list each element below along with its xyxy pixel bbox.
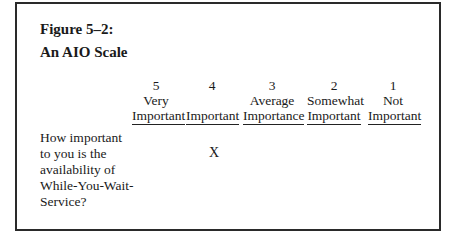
- scale-label-line1: Average: [243, 93, 301, 108]
- scale-option-1: 1 Not Important: [368, 78, 418, 125]
- scale-option-3: 3 Average Importance: [243, 78, 301, 125]
- response-mark: X: [209, 145, 219, 161]
- figure-title: An AIO Scale: [40, 43, 128, 61]
- figure-label: Figure 5–2:: [40, 20, 113, 38]
- scale-value: 2: [307, 78, 361, 93]
- scale-label-line1: Not: [368, 93, 418, 108]
- scale-label-line2: Importance: [243, 108, 304, 125]
- scale-label-line2: Important: [186, 108, 239, 125]
- scale-label-line2: Important: [132, 108, 185, 125]
- scale-label-line1: Somewhat: [307, 93, 361, 108]
- question-text: How important to you is the availability…: [40, 130, 150, 210]
- question-line: to you is the: [40, 146, 150, 162]
- scale-label-line2: Important: [368, 108, 421, 125]
- scale-option-5: 5 Very Important: [132, 78, 180, 125]
- question-line: While-You-Wait-: [40, 178, 150, 194]
- scale-option-2: 2 Somewhat Important: [307, 78, 361, 125]
- scale-value: 3: [243, 78, 301, 93]
- question-line: How important: [40, 130, 150, 146]
- question-line: Service?: [40, 194, 150, 210]
- scale-value: 4: [186, 78, 238, 93]
- scale-label-line2: Important: [307, 108, 360, 125]
- scale-label-line1: [186, 93, 238, 108]
- scale-label-line1: Very: [132, 93, 180, 108]
- scale-value: 1: [368, 78, 418, 93]
- scale-option-4: 4 Important: [186, 78, 238, 125]
- question-line: availability of: [40, 162, 150, 178]
- scale-value: 5: [132, 78, 180, 93]
